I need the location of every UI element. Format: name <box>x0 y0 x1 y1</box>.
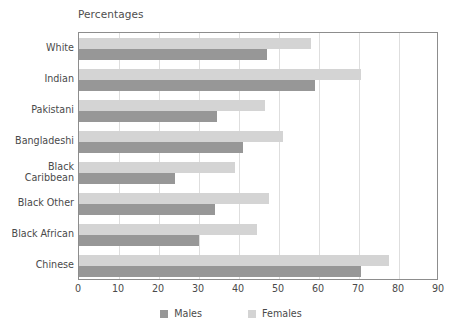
bar-females <box>79 131 283 142</box>
x-axis-tick-label: 70 <box>352 283 364 294</box>
y-axis-label: Chinese <box>0 259 74 270</box>
y-axis-label: White <box>0 42 74 53</box>
y-axis-label: Indian <box>0 73 74 84</box>
bar-males <box>79 49 267 60</box>
bar-males <box>79 142 243 153</box>
bar-females <box>79 69 361 80</box>
bar-males <box>79 235 199 246</box>
bar-females <box>79 162 235 173</box>
legend-swatch-icon <box>248 310 256 318</box>
bar-males <box>79 266 361 277</box>
bar-females <box>79 224 257 235</box>
x-axis-tick-label: 40 <box>232 283 244 294</box>
bar-group <box>79 38 437 60</box>
bar-males <box>79 173 175 184</box>
bar-group <box>79 100 437 122</box>
bar-group <box>79 224 437 246</box>
legend-item-males: Males <box>160 308 202 319</box>
bar-females <box>79 255 389 266</box>
legend-label: Females <box>262 308 302 319</box>
y-axis-label: Black African <box>0 228 74 239</box>
x-axis-tick-label: 0 <box>75 283 81 294</box>
bar-females <box>79 38 311 49</box>
x-axis-tick-labels: 0102030405060708090 <box>78 283 438 299</box>
y-axis-label: Black Caribbean <box>0 161 74 183</box>
legend-item-females: Females <box>248 308 302 319</box>
bars-layer <box>79 33 437 279</box>
bar-females <box>79 100 265 111</box>
x-axis-tick-label: 90 <box>432 283 444 294</box>
bar-males <box>79 80 315 91</box>
bar-group <box>79 255 437 277</box>
bar-group <box>79 162 437 184</box>
x-axis-tick-label: 20 <box>152 283 164 294</box>
x-axis-tick-label: 80 <box>392 283 404 294</box>
bar-group <box>79 193 437 215</box>
bar-males <box>79 111 217 122</box>
bar-group <box>79 69 437 91</box>
bar-females <box>79 193 269 204</box>
chart-title: Percentages <box>78 8 144 20</box>
y-axis-label: Bangladeshi <box>0 135 74 146</box>
y-axis-category-labels: WhiteIndianPakistaniBangladeshiBlack Car… <box>0 32 74 280</box>
x-axis-tick-label: 30 <box>192 283 204 294</box>
bar-chart: Percentages WhiteIndianPakistaniBanglade… <box>0 0 462 336</box>
legend-label: Males <box>174 308 202 319</box>
bar-group <box>79 131 437 153</box>
plot-area <box>78 32 438 280</box>
x-axis-tick-label: 50 <box>272 283 284 294</box>
bar-males <box>79 204 215 215</box>
y-axis-label: Pakistani <box>0 104 74 115</box>
x-axis-tick-label: 10 <box>112 283 124 294</box>
y-axis-label: Black Other <box>0 197 74 208</box>
x-axis-tick-label: 60 <box>312 283 324 294</box>
chart-legend: MalesFemales <box>0 308 462 319</box>
legend-swatch-icon <box>160 310 168 318</box>
